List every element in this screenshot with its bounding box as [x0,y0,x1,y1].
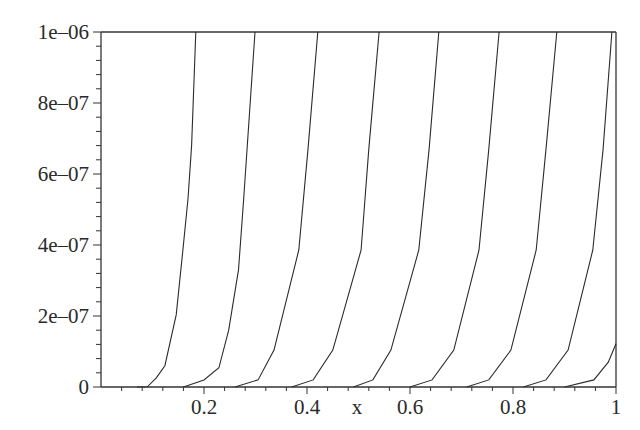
y-tick-label: 6e–07 [38,162,89,186]
x-axis-title: x [352,395,363,419]
curves [137,32,616,387]
curve-4 [292,32,380,387]
x-ticks: 0.20.40.60.81 [122,387,622,419]
curve-1 [137,32,196,387]
chart: 02e–074e–076e–078e–071e–06 0.20.40.60.81… [0,0,640,430]
x-tick-label: 0.6 [397,395,423,419]
y-tick-label: 1e–06 [38,20,89,44]
y-tick-label: 0 [79,375,90,399]
curve-9 [565,344,617,387]
x-tick-label: 1 [611,395,622,419]
y-ticks: 02e–074e–076e–078e–071e–06 [38,20,101,399]
curve-8 [523,32,612,387]
curve-3 [235,32,318,387]
x-tick-label: 0.4 [294,395,321,419]
y-tick-label: 2e–07 [38,304,89,328]
plot-frame [101,32,616,387]
x-tick-label: 0.8 [500,395,526,419]
curve-7 [467,32,557,387]
curve-5 [353,32,438,387]
y-tick-label: 4e–07 [38,233,89,257]
x-tick-label: 0.2 [191,395,217,419]
y-tick-label: 8e–07 [38,91,89,115]
